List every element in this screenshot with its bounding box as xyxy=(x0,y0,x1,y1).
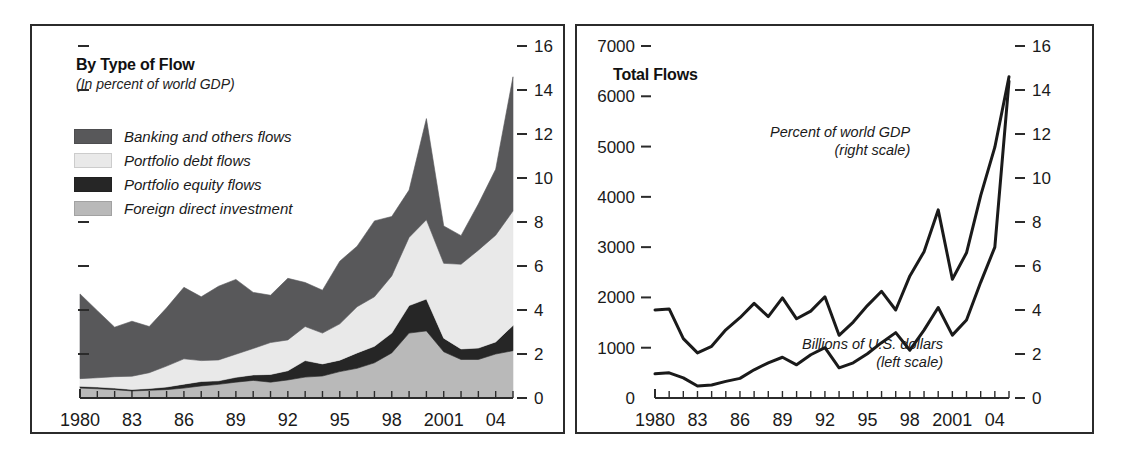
panel-by-type-of-flow: 02468101214161980838689929598200104 By T… xyxy=(30,24,565,434)
y-axis-tick-label: 8 xyxy=(534,213,543,232)
legend-label-fdi: Foreign direct investment xyxy=(124,200,292,217)
panel-total-flows: 0100020003000400050006000700002468101214… xyxy=(575,24,1094,434)
right-axis-tick-label: 8 xyxy=(1032,213,1041,232)
x-axis-tick-label: 92 xyxy=(815,410,835,430)
y-axis-tick-label: 10 xyxy=(534,169,553,188)
annotation-usd-line1: Billions of U.S. dollars xyxy=(802,336,943,354)
x-axis-tick-label: 83 xyxy=(687,410,707,430)
legend-item-portfolio-equity: Portfolio equity flows xyxy=(74,172,292,196)
annotation-billions-of-us-dollars: Billions of U.S. dollars (left scale) xyxy=(802,336,943,371)
left-axis-tick-label: 2000 xyxy=(597,288,635,307)
legend: Banking and others flows Portfolio debt … xyxy=(74,124,292,220)
y-axis-tick-label: 14 xyxy=(534,81,553,100)
x-axis-tick-label: 04 xyxy=(486,410,506,430)
right-axis-tick-label: 0 xyxy=(1032,389,1041,408)
x-axis-tick-label: 2001 xyxy=(932,410,972,430)
x-axis-tick-label: 89 xyxy=(772,410,792,430)
right-panel-title: Total Flows xyxy=(613,66,698,84)
x-axis-tick-label: 86 xyxy=(730,410,750,430)
x-axis-tick-label: 98 xyxy=(900,410,920,430)
right-axis-tick-label: 12 xyxy=(1032,125,1051,144)
legend-item-fdi: Foreign direct investment xyxy=(74,196,292,220)
annotation-percent-of-world-gdp: Percent of world GDP (right scale) xyxy=(770,124,910,159)
y-axis-tick-label: 0 xyxy=(534,389,543,408)
legend-item-banking: Banking and others flows xyxy=(74,124,292,148)
annotation-gdp-line1: Percent of world GDP xyxy=(770,124,910,142)
annotation-gdp-line2: (right scale) xyxy=(770,142,910,160)
legend-swatch-portfolio-equity xyxy=(74,177,112,192)
x-axis-tick-label: 2001 xyxy=(424,410,464,430)
right-axis-tick-label: 4 xyxy=(1032,301,1041,320)
x-axis-tick-label: 04 xyxy=(985,410,1005,430)
x-axis-tick-label: 83 xyxy=(122,410,142,430)
legend-item-portfolio-debt: Portfolio debt flows xyxy=(74,148,292,172)
left-axis-tick-label: 6000 xyxy=(597,87,635,106)
right-axis-tick-label: 16 xyxy=(1032,37,1051,56)
x-axis-tick-label: 98 xyxy=(382,410,402,430)
line-percent-of-world-gdp xyxy=(655,77,1009,353)
left-axis-tick-label: 7000 xyxy=(597,37,635,56)
legend-swatch-banking xyxy=(74,129,112,144)
left-axis-tick-label: 1000 xyxy=(597,339,635,358)
left-axis-tick-label: 3000 xyxy=(597,238,635,257)
y-axis-tick-label: 16 xyxy=(534,37,553,56)
legend-label-banking: Banking and others flows xyxy=(124,128,292,145)
legend-swatch-fdi xyxy=(74,201,112,216)
x-axis-tick-label: 92 xyxy=(278,410,298,430)
right-axis-tick-label: 10 xyxy=(1032,169,1051,188)
annotation-usd-line2: (left scale) xyxy=(802,354,943,372)
x-axis-tick-label: 95 xyxy=(330,410,350,430)
right-axis-tick-label: 2 xyxy=(1032,345,1041,364)
x-axis-tick-label: 1980 xyxy=(60,410,100,430)
legend-label-portfolio-equity: Portfolio equity flows xyxy=(124,176,262,193)
right-axis-tick-label: 14 xyxy=(1032,81,1051,100)
x-axis-tick-label: 89 xyxy=(226,410,246,430)
right-axis-tick-label: 6 xyxy=(1032,257,1041,276)
y-axis-tick-label: 4 xyxy=(534,301,543,320)
legend-label-portfolio-debt: Portfolio debt flows xyxy=(124,152,251,169)
legend-swatch-portfolio-debt xyxy=(74,153,112,168)
y-axis-tick-label: 12 xyxy=(534,125,553,144)
left-panel-title: By Type of Flow xyxy=(76,56,195,74)
x-axis-tick-label: 95 xyxy=(857,410,877,430)
left-axis-tick-label: 0 xyxy=(626,389,635,408)
left-panel-subtitle: (In percent of world GDP) xyxy=(76,76,235,92)
y-axis-tick-label: 2 xyxy=(534,345,543,364)
x-axis-tick-label: 1980 xyxy=(635,410,675,430)
y-axis-tick-label: 6 xyxy=(534,257,543,276)
figure-root: 02468101214161980838689929598200104 By T… xyxy=(0,0,1124,459)
x-axis-tick-label: 86 xyxy=(174,410,194,430)
left-axis-tick-label: 4000 xyxy=(597,188,635,207)
left-axis-tick-label: 5000 xyxy=(597,138,635,157)
